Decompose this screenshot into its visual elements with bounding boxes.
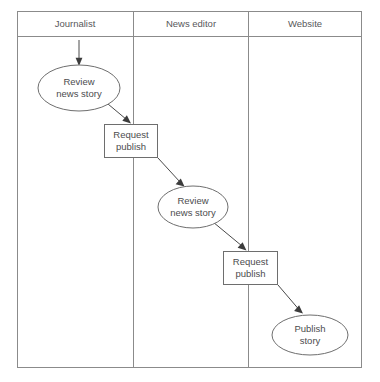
node-request-publish-1[interactable]: Request publish [105,125,158,158]
lane-title-journalist: Journalist [55,18,96,29]
connector-4-arrow-head [294,305,303,313]
node-review-news-story-journalist-line-1: Review [63,76,94,87]
connector-request-publish-1-to-review-editor [158,158,185,187]
connector-review-editor-to-request-publish-2 [213,222,247,251]
connector-review-to-request-publish-1 [108,104,131,124]
lane-title-website: Website [288,18,322,29]
node-review-news-story-editor-line-2: news story [170,207,216,218]
node-review-news-story-editor[interactable]: Review news story [158,186,228,228]
swimlane-canvas: Journalist News editor Website [0,0,380,382]
node-review-news-story-journalist-line-2: news story [56,88,102,99]
start-arrow [76,40,83,66]
connector-2-arrow-head [176,179,185,187]
node-publish-story-line-2: story [300,335,321,346]
node-request-publish-2-line-2: publish [235,268,265,279]
node-request-publish-2-line-1: Request [233,256,269,267]
lane-title-news-editor: News editor [166,18,216,29]
node-review-news-story-journalist[interactable]: Review news story [38,65,120,111]
node-request-publish-1-line-1: Request [113,129,149,140]
swimlane-diagram: Journalist News editor Website [0,0,380,382]
node-request-publish-1-line-2: publish [116,141,146,152]
node-review-news-story-editor-line-1: Review [177,195,208,206]
node-request-publish-2[interactable]: Request publish [224,252,278,285]
connector-request-publish-2-to-publish-story [278,285,303,314]
node-publish-story-line-1: Publish [294,323,325,334]
node-publish-story[interactable]: Publish story [272,315,348,355]
